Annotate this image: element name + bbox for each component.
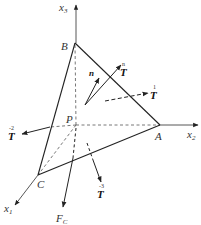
traction-3-arrow <box>93 160 101 182</box>
axes <box>15 5 198 205</box>
traction-3-label: T <box>97 188 105 200</box>
vertex-C-label: C <box>37 178 45 190</box>
edge-BC <box>38 43 75 175</box>
traction-n-superscript: n <box>122 61 125 67</box>
point-P-label: P <box>65 113 73 125</box>
traction-1-superscript: 1 <box>153 84 156 90</box>
traction-3-dashed <box>87 143 93 160</box>
traction-1-label: T <box>150 89 158 101</box>
traction-2-superscript: -2 <box>9 125 14 131</box>
traction-2-label: T <box>8 130 16 142</box>
edge-BA <box>75 43 160 125</box>
tetrahedron-diagram: x3 x2 x1 B A C P n T n T 1 T -2 T -3 FC <box>0 0 201 225</box>
x1-label: x1 <box>3 202 12 216</box>
x2-label: x2 <box>186 128 196 142</box>
visible-edges <box>38 43 160 175</box>
x1-axis <box>15 175 38 205</box>
edge-PB <box>75 43 76 125</box>
vertex-A-label: A <box>154 130 162 142</box>
traction-n-label: T <box>120 66 128 78</box>
body-force-label: FC <box>55 212 68 225</box>
edge-CA <box>38 125 160 175</box>
body-force-arrow <box>63 158 73 207</box>
body-force-dashed <box>73 128 76 158</box>
traction-1-arrow <box>105 93 148 101</box>
traction-3-superscript: -3 <box>99 183 104 189</box>
vertex-B-label: B <box>61 40 68 52</box>
normal-label: n <box>89 68 94 78</box>
x3-label: x3 <box>58 1 68 15</box>
traction-2-arrow <box>22 127 50 134</box>
t2-hidden-segment <box>50 125 76 127</box>
